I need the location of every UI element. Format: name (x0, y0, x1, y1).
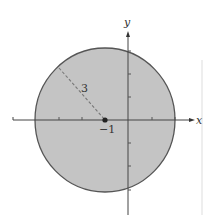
disk-diagram: 3 −1 y x (0, 0, 204, 220)
radius-label: 3 (81, 82, 88, 95)
center-point (102, 117, 107, 122)
y-axis-arrow-icon (126, 31, 130, 37)
y-axis-label: y (123, 16, 131, 29)
x-axis-arrow-icon (189, 118, 195, 122)
x-axis-label: x (196, 114, 203, 127)
center-label: −1 (99, 123, 115, 136)
